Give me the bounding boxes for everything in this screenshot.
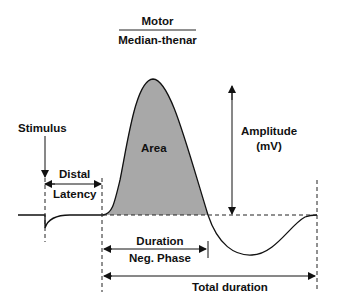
title-median-thenar: Median-thenar bbox=[110, 33, 205, 47]
stimulus-label: Stimulus bbox=[18, 121, 67, 135]
title-motor: Motor bbox=[119, 14, 196, 28]
area-label: Area bbox=[141, 141, 167, 155]
distal-label: Distal bbox=[59, 167, 90, 181]
neg-phase-label: Neg. Phase bbox=[120, 251, 200, 265]
latency-label: Latency bbox=[53, 187, 96, 201]
amplitude-unit-label: (mV) bbox=[235, 139, 303, 153]
total-duration-label: Total duration bbox=[180, 280, 280, 294]
duration-label: Duration bbox=[125, 234, 195, 248]
amplitude-label: Amplitude bbox=[235, 124, 303, 138]
